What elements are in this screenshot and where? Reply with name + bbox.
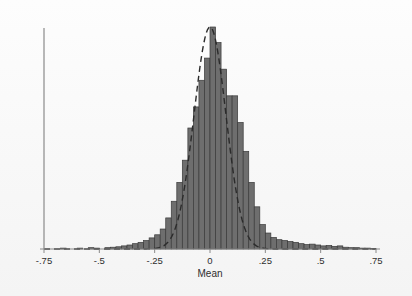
- bars-group: [61, 27, 376, 249]
- histogram-bar: [133, 244, 139, 249]
- histogram-bar: [276, 240, 282, 249]
- histogram-bar: [282, 241, 288, 249]
- histogram-bar: [254, 207, 260, 249]
- histogram-bar: [227, 96, 233, 249]
- x-tick-label: .25: [259, 255, 272, 266]
- x-tick-labels: -.75-.5-.250.25.5.75: [36, 255, 383, 266]
- histogram-bar: [238, 122, 244, 249]
- x-axis-title: Mean: [197, 268, 222, 279]
- histogram-bar: [287, 241, 293, 249]
- histogram-bar: [204, 58, 210, 249]
- histogram-bar: [182, 160, 188, 249]
- x-tick-label: -.75: [36, 255, 52, 266]
- histogram-bar: [299, 244, 305, 249]
- histogram-svg: -.75-.5-.250.25.5.75 Mean: [0, 0, 412, 296]
- histogram-figure: -.75-.5-.250.25.5.75 Mean: [0, 0, 412, 296]
- histogram-bar: [138, 242, 144, 249]
- histogram-bar: [199, 80, 205, 249]
- x-tick-label: 0: [207, 255, 212, 266]
- histogram-bar: [260, 225, 266, 249]
- histogram-bar: [144, 241, 150, 249]
- x-tick-label: .5: [317, 255, 325, 266]
- histogram-bar: [149, 238, 155, 249]
- x-tick-label: -.5: [94, 255, 105, 266]
- histogram-bar: [193, 107, 199, 249]
- histogram-bar: [221, 69, 227, 249]
- histogram-bar: [243, 151, 249, 249]
- histogram-bar: [310, 244, 316, 249]
- histogram-bar: [293, 242, 299, 249]
- x-tick-label: -.25: [146, 255, 162, 266]
- x-tick-label: .75: [369, 255, 382, 266]
- histogram-bar: [271, 237, 277, 249]
- plot-area: -.75-.5-.250.25.5.75 Mean: [0, 0, 412, 296]
- histogram-bar: [265, 233, 271, 249]
- histogram-bar: [160, 229, 166, 249]
- histogram-bar: [210, 27, 216, 249]
